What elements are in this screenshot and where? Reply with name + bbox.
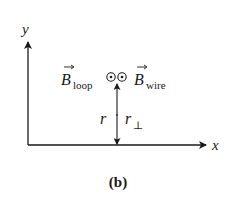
b-wire-subscript: wire (146, 79, 166, 91)
vector-arrow-icon (137, 65, 147, 69)
r-perp-label: r ⊥ (125, 110, 143, 131)
x-axis-label: x (211, 137, 219, 153)
figure-caption: (b) (109, 174, 127, 191)
y-axis-label: y (20, 21, 29, 37)
r-perp-symbol: r (125, 110, 132, 127)
b-wire-out-of-page-icon (118, 73, 126, 81)
r-perp-subscript: ⊥ (133, 119, 143, 131)
b-loop-label: B loop (61, 65, 93, 91)
r-label: r (100, 110, 107, 127)
b-loop-symbol: B (61, 71, 71, 88)
b-wire-label: B wire (134, 65, 166, 91)
b-loop-subscript: loop (73, 79, 93, 91)
b-wire-symbol: B (134, 71, 144, 88)
b-loop-out-of-page-icon (107, 73, 115, 81)
vector-arrow-icon (64, 65, 74, 69)
diagram-canvas: y x B loop B wire r r ⊥ (b) (0, 0, 236, 203)
